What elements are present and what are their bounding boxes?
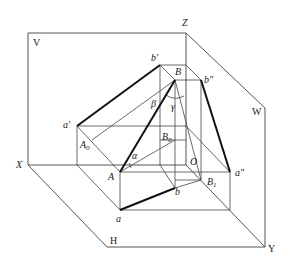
label-v-plane: V [33,37,41,48]
label-h-plane: H [110,235,117,246]
label-b-double-prime: b″ [204,74,214,85]
label-beta: β [150,98,156,109]
y-axis [186,165,265,247]
label-b: b [175,186,180,197]
label-a-prime: a′ [63,119,71,130]
label-y-axis: Y [268,243,275,254]
main-lines [77,65,230,210]
label-A0: A0 [79,139,90,152]
label-x-axis: X [15,159,23,170]
label-alpha: α [132,150,138,161]
line-ab [120,188,175,210]
label-B1: B1 [207,176,217,189]
construction-lines [77,65,230,210]
label-b-prime: b′ [151,52,159,63]
label-B0: B0 [162,131,172,144]
line-a-prime-b-prime [77,65,160,126]
label-a: a [116,213,121,224]
h-plane-frame [28,165,265,247]
label-z-axis: Z [182,17,188,28]
label-A: A [107,171,115,182]
label-w-plane: W [252,106,262,117]
label-a-double-prime: a″ [235,167,245,178]
line-b-double-prime-a-double-prime [201,80,230,172]
v-plane-frame [28,33,186,165]
label-origin: O [190,156,197,167]
label-B: B [175,66,181,77]
w-plane-frame [186,33,265,247]
plane-frames [28,33,265,247]
projection-diagram: V W H Z X Y O a′ b′ B b″ a″ A a b A0 B0 … [0,0,293,267]
